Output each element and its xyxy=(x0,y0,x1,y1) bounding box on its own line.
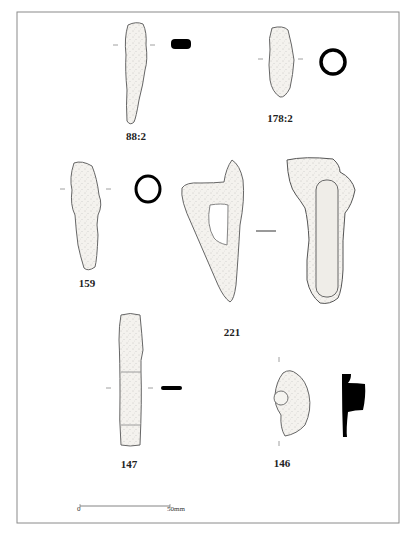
artifact-88-2: 88:2 xyxy=(113,23,191,142)
section-159 xyxy=(136,176,160,202)
label-159: 159 xyxy=(79,277,96,289)
section-147 xyxy=(161,386,182,390)
scale-bar: 0 50mm xyxy=(77,504,185,513)
label-178-2: 178:2 xyxy=(267,112,293,124)
artifact-147: 147 xyxy=(106,314,182,471)
finds-plate: 88:2 178:2 159 221 147 xyxy=(0,0,413,540)
artifact-159: 159 xyxy=(60,162,160,289)
label-147: 147 xyxy=(121,458,138,470)
artifact-147-drawing xyxy=(119,314,143,447)
artifact-221-loop xyxy=(316,180,338,297)
artifact-178-2: 178:2 xyxy=(258,27,345,124)
scale-bar-end-label: 50mm xyxy=(167,505,185,513)
artifact-159-drawing xyxy=(71,162,101,270)
artifact-146: 146 xyxy=(274,357,366,469)
scale-bar-start-label: 0 xyxy=(77,505,81,513)
label-146: 146 xyxy=(274,457,291,469)
section-146 xyxy=(342,374,365,437)
section-178-2 xyxy=(321,50,345,74)
artifact-88-2-drawing xyxy=(125,23,146,124)
artifact-178-2-drawing xyxy=(269,27,294,97)
section-88-2 xyxy=(171,39,191,49)
artifact-221: 221 xyxy=(182,158,355,338)
label-221: 221 xyxy=(224,326,241,338)
label-88-2: 88:2 xyxy=(126,130,147,142)
artifact-146-knob xyxy=(274,391,288,405)
